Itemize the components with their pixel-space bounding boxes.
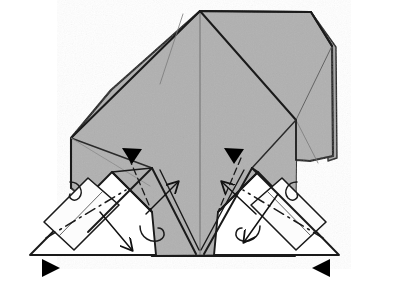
top-flat-edge (200, 11, 311, 12)
origami-diagram-canvas (0, 0, 403, 287)
origami-diagram-figure (0, 0, 403, 287)
